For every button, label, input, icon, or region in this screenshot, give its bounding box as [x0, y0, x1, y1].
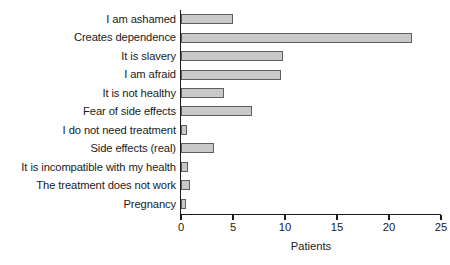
category-label: I do not need treatment	[0, 121, 176, 139]
tick-mark	[388, 215, 389, 220]
category-label: I am ashamed	[0, 10, 176, 28]
tick-label: 25	[427, 221, 450, 233]
bar	[181, 14, 233, 24]
category-label: The treatment does not work	[0, 176, 176, 194]
tick-mark	[440, 215, 441, 220]
bar	[181, 88, 224, 98]
category-axis-labels: I am ashamed Creates dependence It is sl…	[0, 10, 176, 213]
bar-chart: I am ashamed Creates dependence It is sl…	[0, 0, 450, 265]
bar	[181, 199, 186, 209]
bar-row	[181, 176, 441, 194]
tick-label: 0	[167, 221, 195, 233]
bar-rows	[181, 10, 441, 213]
bar-row	[181, 28, 441, 46]
bar-row	[181, 84, 441, 102]
bar-row	[181, 139, 441, 157]
bar	[181, 180, 190, 190]
bar-row	[181, 158, 441, 176]
bar	[181, 51, 283, 61]
tick-label: 15	[323, 221, 351, 233]
tick-mark	[336, 215, 337, 220]
category-label: It is not healthy	[0, 84, 176, 102]
bar	[181, 33, 412, 43]
bar-row	[181, 121, 441, 139]
tick-label: 5	[219, 221, 247, 233]
tick-label: 10	[271, 221, 299, 233]
tick-label: 20	[375, 221, 403, 233]
bar	[181, 70, 281, 80]
category-label: It is slavery	[0, 47, 176, 65]
category-label: Pregnancy	[0, 195, 176, 213]
bar-row	[181, 195, 441, 213]
category-label: I am afraid	[0, 65, 176, 83]
bar	[181, 125, 187, 135]
bar	[181, 143, 214, 153]
tick-mark	[284, 215, 285, 220]
tick-mark	[232, 215, 233, 220]
category-label: It is incompatible with my health	[0, 158, 176, 176]
category-label: Fear of side effects	[0, 102, 176, 120]
x-axis-title: Patients	[181, 240, 441, 252]
category-label: Side effects (real)	[0, 139, 176, 157]
x-axis-ticks: 0 5 10 15 20 25	[181, 215, 441, 239]
tick-mark	[180, 215, 181, 220]
bar	[181, 162, 188, 172]
bar-row	[181, 65, 441, 83]
plot-area	[181, 10, 441, 213]
bar-row	[181, 10, 441, 28]
category-label: Creates dependence	[0, 28, 176, 46]
bar-row	[181, 102, 441, 120]
bar	[181, 106, 252, 116]
bar-row	[181, 47, 441, 65]
